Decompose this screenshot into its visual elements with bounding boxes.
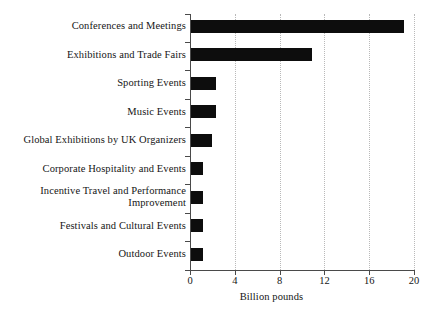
x-axis-tick-label-16: 16 xyxy=(349,275,389,286)
gridline-12 xyxy=(324,14,325,270)
y-axis-tick xyxy=(185,213,190,214)
bar-festivals-and-cultural-events xyxy=(190,219,203,232)
x-axis-tick-label-8: 8 xyxy=(260,275,300,286)
y-axis-tick xyxy=(185,70,190,71)
y-axis-line xyxy=(190,14,191,271)
bar-exhibitions-and-trade-fairs xyxy=(190,48,312,61)
bar-sporting-events xyxy=(190,77,216,90)
category-label-corporate-hospitality-and-events: Corporate Hospitality and Events xyxy=(43,163,186,175)
category-label-sporting-events: Sporting Events xyxy=(117,77,186,89)
category-label-outdoor-events: Outdoor Events xyxy=(118,248,186,260)
bar-incentive-travel-and-performance-improvement xyxy=(190,191,203,204)
bar-global-exhibitions-by-uk-organizers xyxy=(190,134,212,147)
x-axis-tick-label-12: 12 xyxy=(304,275,344,286)
category-label-incentive-travel-and-performance-improvement: Incentive Travel and Performance Improve… xyxy=(40,185,186,209)
category-label-global-exhibitions-by-uk-organizers: Global Exhibitions by UK Organizers xyxy=(23,134,186,146)
bar-music-events xyxy=(190,105,216,118)
gridline-16 xyxy=(369,14,370,270)
y-axis-tick xyxy=(185,241,190,242)
y-axis-tick xyxy=(185,14,190,15)
y-axis-tick xyxy=(185,42,190,43)
x-axis-tick-label-4: 4 xyxy=(215,275,255,286)
category-label-music-events: Music Events xyxy=(127,106,186,118)
bar-corporate-hospitality-and-events xyxy=(190,162,203,175)
bar-chart: Conferences and Meetings Exhibitions and… xyxy=(0,0,435,314)
y-axis-tick xyxy=(185,156,190,157)
x-axis-tick-label-0: 0 xyxy=(170,275,210,286)
category-label-festivals-and-cultural-events: Festivals and Cultural Events xyxy=(60,220,186,232)
gridline-20 xyxy=(414,14,415,270)
category-label-conferences-and-meetings: Conferences and Meetings xyxy=(72,20,186,32)
bar-conferences-and-meetings xyxy=(190,20,404,33)
y-axis-tick xyxy=(185,127,190,128)
x-axis-tick-label-20: 20 xyxy=(394,275,434,286)
y-axis-tick xyxy=(185,99,190,100)
x-axis-title: Billion pounds xyxy=(0,291,435,302)
bar-outdoor-events xyxy=(190,248,203,261)
x-axis-line xyxy=(190,270,415,271)
plot-area xyxy=(190,14,414,270)
category-label-exhibitions-and-trade-fairs: Exhibitions and Trade Fairs xyxy=(67,49,186,61)
